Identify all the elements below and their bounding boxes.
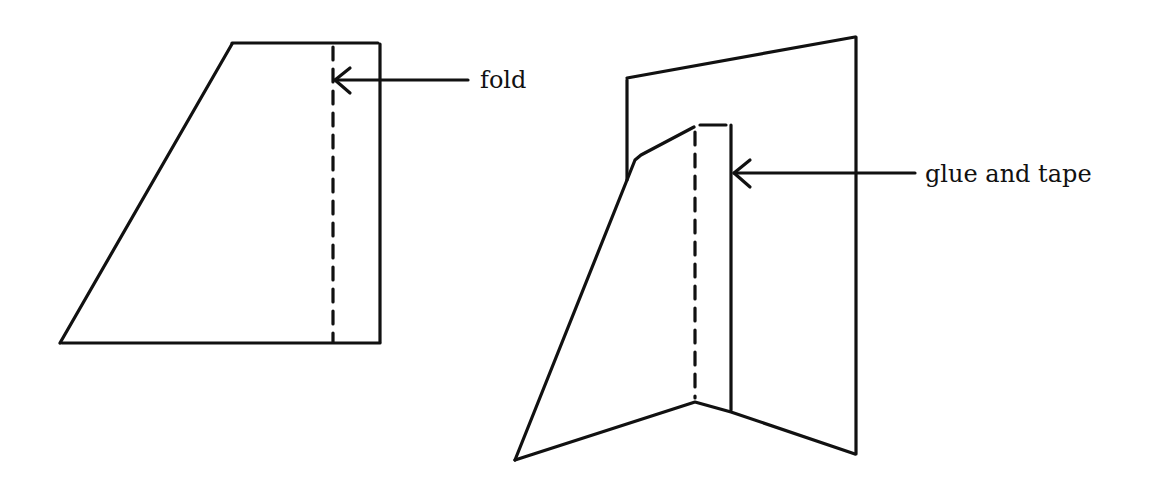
flat-trapezoid — [60, 43, 380, 343]
glue-tape-arrow: glue and tape — [734, 160, 1092, 188]
back-panel-top-edge — [627, 37, 855, 78]
back-panel — [627, 37, 856, 454]
folded-piece-bottom-edge — [515, 402, 855, 460]
fold-label: fold — [480, 66, 526, 94]
fold-arrow: fold — [335, 66, 526, 94]
glue-and-tape-label: glue and tape — [925, 160, 1092, 188]
folded-piece — [515, 125, 855, 460]
trapezoid-slanted-edge — [60, 44, 232, 343]
diagram-canvas: fold glue and tape — [0, 0, 1170, 500]
diagram-svg: fold glue and tape — [0, 0, 1170, 500]
